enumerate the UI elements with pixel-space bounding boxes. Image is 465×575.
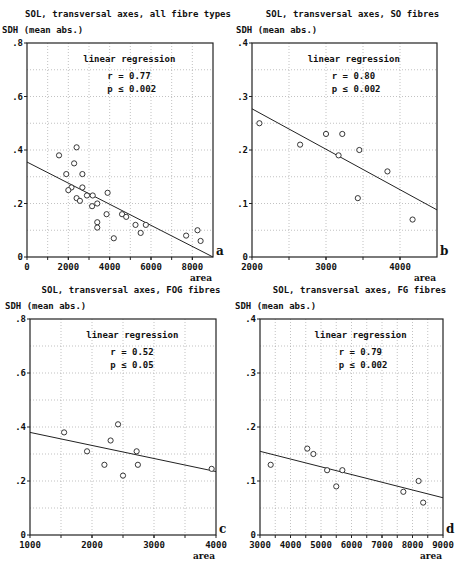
data-point: [90, 193, 95, 198]
y-tick-label: 0: [18, 252, 23, 262]
chart-panel-d: SOL, transversal axes, FG fibresSDH (mea…: [235, 285, 465, 575]
data-point: [340, 131, 345, 136]
y-tick-label: .6: [12, 92, 23, 102]
annotation-p-value: p ≤ 0.002: [107, 84, 156, 94]
x-axis-label: area: [420, 551, 442, 561]
x-tick-label: 2000: [57, 262, 79, 272]
x-tick-label: 4000: [280, 540, 302, 550]
data-point: [80, 185, 85, 190]
annotation-heading: linear regression: [86, 330, 178, 340]
x-tick-label: 4000: [389, 262, 411, 272]
y-tick-label: .1: [237, 199, 248, 209]
data-points: [56, 145, 203, 244]
data-point: [56, 153, 61, 158]
data-point: [257, 121, 262, 126]
y-axis-label: SDH (mean abs.): [5, 301, 86, 311]
data-point: [72, 161, 77, 166]
panel-letter: c: [219, 522, 226, 536]
chart-panel-a: SOL, transversal axes, all fibre typesSD…: [0, 0, 235, 285]
data-point: [355, 196, 360, 201]
data-point: [416, 478, 421, 483]
data-point: [357, 147, 362, 152]
y-tick-label: .3: [245, 368, 256, 378]
data-point: [104, 212, 109, 217]
data-points: [268, 446, 426, 505]
annotation-r-value: r = 0.80: [332, 71, 375, 81]
data-point: [323, 131, 328, 136]
chart-panel-b: SOL, transversal axes, SO fibresSDH (mea…: [235, 0, 465, 285]
x-tick-label: 2000: [241, 262, 263, 272]
data-point: [385, 169, 390, 174]
data-point: [305, 446, 310, 451]
chart-title: SOL, transversal axes, FG fibres: [273, 285, 446, 295]
y-tick-label: 0: [243, 252, 248, 262]
scatter-chart-c: SOL, transversal axes, FOG fibresSDH (me…: [0, 285, 235, 575]
data-point: [95, 201, 100, 206]
x-axis-label: area: [193, 551, 215, 561]
data-point: [410, 217, 415, 222]
y-tick-label: .2: [12, 199, 23, 209]
data-point: [311, 451, 316, 456]
data-point: [74, 145, 79, 150]
x-tick-label: 4000: [99, 262, 121, 272]
x-tick-label: 6000: [341, 540, 363, 550]
y-tick-label: .6: [15, 368, 26, 378]
data-point: [195, 228, 200, 233]
y-tick-label: .8: [12, 38, 23, 48]
x-axis-label: area: [190, 273, 212, 283]
chart-title: SOL, transversal axes, all fibre types: [25, 9, 231, 19]
y-tick-label: 0: [251, 530, 256, 540]
x-tick-label: 6000: [140, 262, 162, 272]
data-point: [135, 462, 140, 467]
x-tick-label: 7000: [371, 540, 393, 550]
x-tick-label: 3000: [249, 540, 271, 550]
data-point: [105, 190, 110, 195]
annotation-p-value: p ≤ 0.002: [332, 84, 381, 94]
x-tick-label: 3000: [143, 540, 165, 550]
data-point: [138, 230, 143, 235]
data-point: [421, 500, 426, 505]
data-point: [84, 449, 89, 454]
data-point: [115, 422, 120, 427]
scatter-chart-b: SOL, transversal axes, SO fibresSDH (mea…: [235, 0, 465, 285]
y-tick-label: .1: [245, 476, 256, 486]
y-tick-label: .8: [15, 314, 26, 324]
panel-letter: a: [216, 244, 224, 258]
chart-title: SOL, transversal axes, SO fibres: [266, 9, 439, 19]
data-point: [77, 198, 82, 203]
data-point: [95, 225, 100, 230]
x-tick-label: 9000: [432, 540, 454, 550]
data-point: [80, 171, 85, 176]
x-tick-label: 2000: [81, 540, 103, 550]
data-point: [66, 188, 71, 193]
x-tick-label: 8000: [181, 262, 203, 272]
annotation-heading: linear regression: [308, 54, 400, 64]
scatter-chart-a: SOL, transversal axes, all fibre typesSD…: [0, 0, 235, 285]
data-point: [143, 222, 148, 227]
panel-letter: d: [446, 522, 455, 536]
x-tick-label: 5000: [310, 540, 332, 550]
data-point: [64, 171, 69, 176]
annotation-r-value: r = 0.77: [107, 71, 150, 81]
regression-line: [27, 162, 213, 257]
y-axis-label: SDH (mean abs.): [236, 25, 317, 35]
data-point: [209, 466, 214, 471]
x-tick-label: 1000: [19, 540, 41, 550]
data-point: [334, 484, 339, 489]
chart-panel-c: SOL, transversal axes, FOG fibresSDH (me…: [0, 285, 235, 575]
data-point: [102, 462, 107, 467]
data-point: [62, 430, 67, 435]
annotation-heading: linear regression: [315, 330, 407, 340]
y-tick-label: .4: [15, 422, 26, 432]
x-tick-label: 4000: [205, 540, 227, 550]
annotation-r-value: r = 0.79: [339, 347, 382, 357]
regression-line: [30, 432, 216, 471]
data-point: [184, 233, 189, 238]
x-tick-label: 0: [24, 262, 29, 272]
x-tick-label: 3000: [315, 262, 337, 272]
annotation-heading: linear regression: [83, 54, 175, 64]
data-point: [401, 489, 406, 494]
panel-letter: b: [440, 244, 448, 258]
y-axis-label: SDH (mean abs.): [2, 25, 83, 35]
data-point: [108, 438, 113, 443]
